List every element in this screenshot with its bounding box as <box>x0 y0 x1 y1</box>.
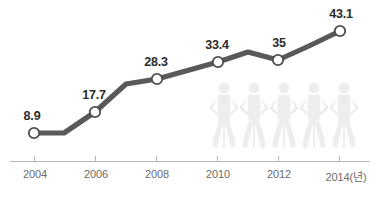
line-chart-figure: 8.9 17.7 28.3 33.4 35 43.1 2004 2006 200… <box>0 0 380 199</box>
data-point-markers <box>29 26 345 138</box>
x-tick-label-2006: 2006 <box>84 168 108 180</box>
data-point-marker <box>273 55 283 65</box>
data-value-label: 33.4 <box>205 38 229 52</box>
data-value-label: 35 <box>272 36 286 50</box>
data-point-marker <box>152 74 162 84</box>
data-line-series <box>34 31 340 133</box>
x-axis-ticks <box>35 156 340 162</box>
x-tick-label-2008: 2008 <box>145 168 169 180</box>
people-silhouette-icon <box>209 83 358 148</box>
x-tick-label-2014: 2014(년) <box>325 168 366 184</box>
data-point-marker <box>213 57 223 67</box>
data-point-marker <box>90 107 100 117</box>
data-point-marker <box>29 128 39 138</box>
chart-canvas <box>0 0 380 199</box>
x-tick-label-2012: 2012 <box>267 168 291 180</box>
data-value-label: 8.9 <box>24 109 41 123</box>
x-tick-label-2010: 2010 <box>206 168 230 180</box>
data-value-label: 17.7 <box>82 88 106 102</box>
data-point-marker <box>335 26 345 36</box>
data-value-label: 28.3 <box>144 55 168 69</box>
x-tick-label-2004: 2004 <box>23 168 47 180</box>
data-value-label: 43.1 <box>329 7 353 21</box>
